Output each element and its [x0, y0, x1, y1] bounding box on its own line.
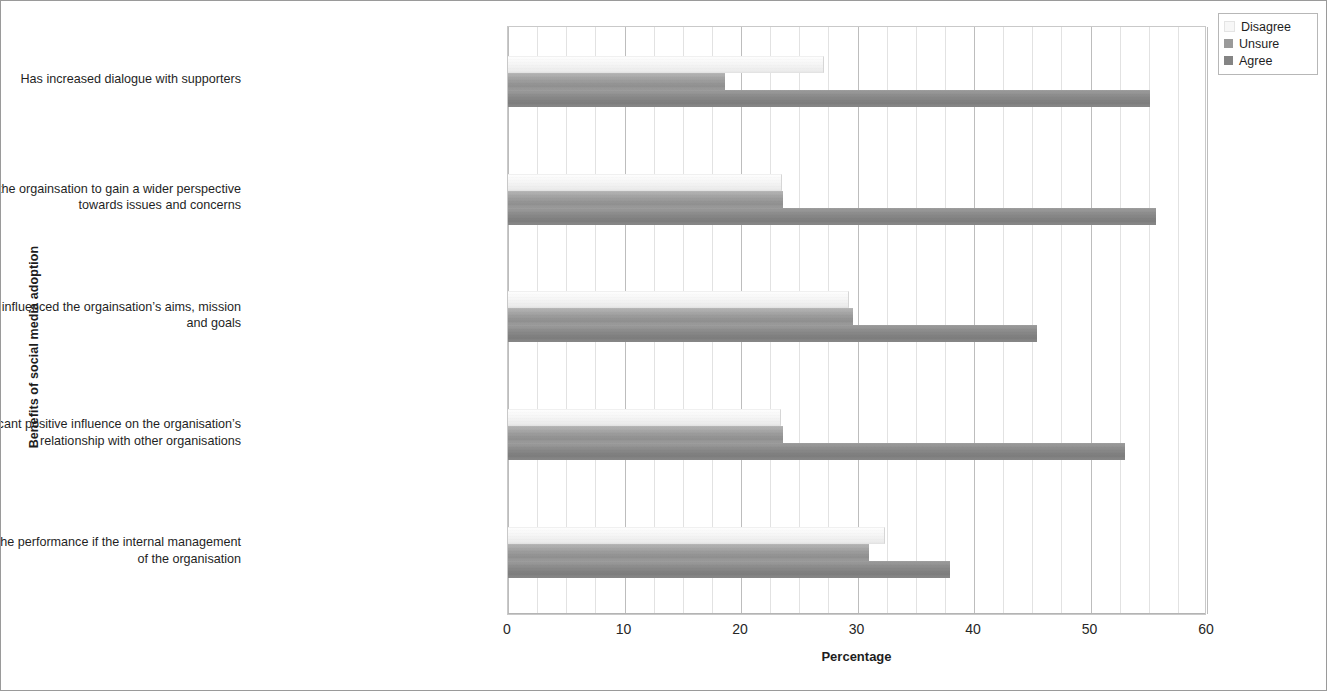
bar-unsure: [508, 191, 783, 208]
category-label-line: and goals: [0, 315, 241, 331]
category-label: Has helped the orgainsation to gain a wi…: [0, 181, 241, 214]
category-label-line: Has a significant positive influence on …: [0, 416, 241, 432]
x-tick-label: 30: [827, 621, 887, 637]
legend-item-unsure[interactable]: Unsure: [1224, 35, 1312, 52]
category-label-line: towards issues and concerns: [0, 197, 241, 213]
legend-swatch-icon: [1224, 21, 1235, 32]
category-label-line: of the organisation: [0, 551, 241, 567]
x-tick-label: 0: [477, 621, 537, 637]
category-label: Has positively influenced the orgainsati…: [0, 299, 241, 332]
bar-unsure: [508, 308, 853, 325]
x-tick-label: 40: [943, 621, 1003, 637]
bar-group: [508, 409, 1205, 460]
category-label: Has increased dialogue with supporters: [0, 71, 241, 87]
x-tick-label: 50: [1060, 621, 1120, 637]
legend-swatch-icon: [1224, 56, 1233, 65]
bar-agree: [508, 561, 950, 578]
category-label-line: relationship with other organisations: [0, 433, 241, 449]
chart-figure: Benefits of social media adoption Has in…: [0, 0, 1327, 691]
legend-item-label: Agree: [1239, 54, 1272, 68]
bar-agree: [508, 208, 1156, 225]
x-tick-label: 60: [1176, 621, 1236, 637]
category-label: Has assisted in the performance if the i…: [0, 534, 241, 567]
category-label-line: Has assisted in the performance if the i…: [0, 534, 241, 550]
legend-item-label: Unsure: [1239, 37, 1279, 51]
bar-unsure: [508, 426, 783, 443]
bar-agree: [508, 90, 1150, 107]
bar-unsure: [508, 544, 869, 561]
legend: DisagreeUnsureAgree: [1218, 13, 1318, 75]
category-label: Has a significant positive influence on …: [0, 416, 241, 449]
bar-disagree: [508, 291, 849, 308]
bar-agree: [508, 325, 1037, 342]
bar-disagree: [508, 174, 782, 191]
category-label-line: Has increased dialogue with supporters: [0, 71, 241, 87]
plot-area: [507, 26, 1206, 615]
legend-item-label: Disagree: [1241, 20, 1291, 34]
legend-swatch-icon: [1224, 39, 1233, 48]
category-label-line: Has positively influenced the orgainsati…: [0, 299, 241, 315]
bar-disagree: [508, 527, 885, 544]
x-tick-label: 20: [710, 621, 770, 637]
bar-group: [508, 56, 1205, 107]
bar-agree: [508, 443, 1125, 460]
x-axis-title: Percentage: [507, 649, 1206, 664]
bar-group: [508, 174, 1205, 225]
bar-group: [508, 527, 1205, 578]
gridline-major: [1207, 27, 1208, 614]
bar-unsure: [508, 73, 725, 90]
bar-group: [508, 291, 1205, 342]
x-axis-line: [508, 613, 1205, 614]
bar-disagree: [508, 409, 781, 426]
category-label-line: Has helped the orgainsation to gain a wi…: [0, 181, 241, 197]
y-axis-title: Benefits of social media adoption: [23, 1, 45, 691]
legend-item-agree[interactable]: Agree: [1224, 52, 1312, 69]
x-tick-label: 10: [594, 621, 654, 637]
bar-disagree: [508, 56, 824, 73]
legend-item-disagree[interactable]: Disagree: [1224, 18, 1312, 35]
